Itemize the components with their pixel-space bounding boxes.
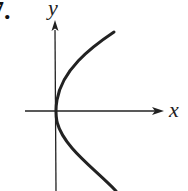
- y-axis-arrowhead-icon: [52, 20, 59, 31]
- x-axis: [25, 107, 164, 115]
- graph-figure: 7. y x: [0, 0, 188, 191]
- plot-canvas: [0, 0, 188, 191]
